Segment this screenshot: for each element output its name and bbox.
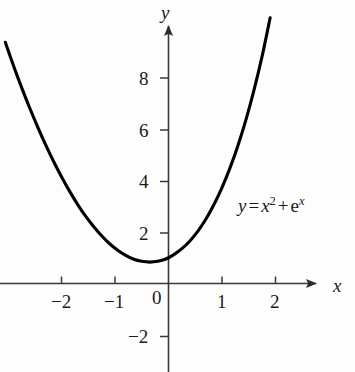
function-curve xyxy=(5,18,270,262)
equation-term1-base: x xyxy=(261,195,269,216)
equation-term1-exponent: 2 xyxy=(270,194,276,208)
x-tick-label-2: 2 xyxy=(270,292,280,311)
equation-annotation: y=x2+ex xyxy=(238,196,305,215)
figure-canvas: −2 −1 0 1 2 8 6 4 2 −2 x y y=x2+ex xyxy=(0,0,355,372)
y-tick-label-8: 8 xyxy=(139,69,149,88)
x-tick-label-0: 0 xyxy=(152,288,162,307)
equation-term2-exponent: x xyxy=(299,194,305,208)
plot-area xyxy=(0,0,355,372)
y-tick-label-6: 6 xyxy=(139,121,149,140)
equation-equals: = xyxy=(246,195,261,216)
y-tick-label-4: 4 xyxy=(139,172,149,191)
y-tick-label--2: −2 xyxy=(128,327,148,346)
x-tick-label--2: −2 xyxy=(51,292,71,311)
x-axis-label: x xyxy=(333,276,341,295)
y-tick-label-2: 2 xyxy=(139,224,149,243)
x-tick-label--1: −1 xyxy=(104,292,124,311)
equation-plus: + xyxy=(276,195,291,216)
y-axis-label: y xyxy=(161,3,169,22)
x-tick-label-1: 1 xyxy=(217,292,227,311)
equation-term2-base: e xyxy=(291,195,299,216)
